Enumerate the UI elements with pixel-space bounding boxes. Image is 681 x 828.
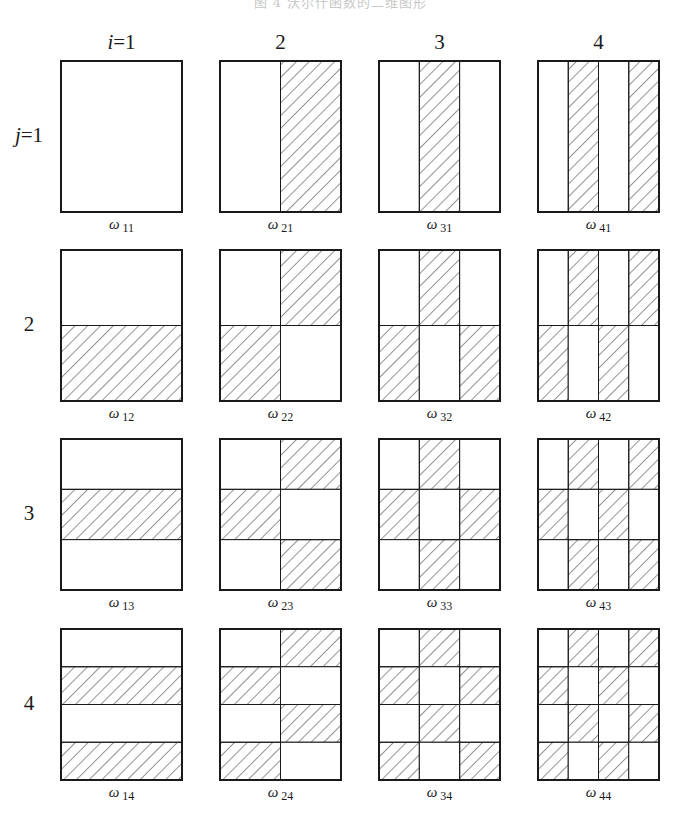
hatched-cell (379, 489, 419, 539)
hatched-cell (460, 326, 500, 402)
blank-cell (538, 439, 568, 489)
walsh-panel-41: ω41 (538, 61, 659, 212)
blank-cell (460, 705, 500, 743)
blank-cell (281, 489, 342, 539)
panel-label: ω14 (61, 784, 182, 804)
blank-cell (460, 61, 500, 212)
hatched-cell (538, 667, 568, 705)
hatched-cell (61, 326, 182, 402)
blank-cell (379, 61, 419, 212)
hatched-cell (460, 742, 500, 780)
walsh-panel-21: ω21 (220, 61, 341, 212)
blank-cell (379, 439, 419, 489)
blank-cell (460, 439, 500, 489)
panel-label: ω34 (379, 784, 500, 804)
hatched-cell (460, 667, 500, 705)
walsh-panel-31: ω31 (379, 61, 500, 212)
hatched-cell (629, 439, 659, 489)
row-label-1: j=1 (0, 123, 58, 148)
panel-label: ω24 (220, 784, 341, 804)
hatched-cell (568, 61, 598, 212)
walsh-panel-23: ω23 (220, 439, 341, 590)
hatched-cell (281, 439, 342, 489)
hatched-cell (568, 705, 598, 743)
hatched-cell (599, 667, 629, 705)
hatched-cell (538, 489, 568, 539)
hatched-cell (220, 489, 281, 539)
blank-cell (419, 489, 459, 539)
blank-cell (460, 540, 500, 590)
blank-cell (419, 667, 459, 705)
panel-label: ω31 (379, 216, 500, 236)
walsh-panel-11: ω11 (61, 61, 182, 212)
blank-cell (538, 705, 568, 743)
blank-cell (460, 629, 500, 667)
blank-cell (281, 326, 342, 402)
blank-cell (379, 540, 419, 590)
blank-cell (379, 629, 419, 667)
walsh-panel-24: ω24 (220, 629, 341, 780)
blank-cell (568, 326, 598, 402)
blank-cell (220, 250, 281, 326)
row-label-4: 4 (0, 691, 58, 716)
row-label-2: 2 (0, 312, 58, 337)
hatched-cell (419, 61, 459, 212)
hatched-cell (61, 667, 182, 705)
blank-cell (629, 742, 659, 780)
hatched-cell (61, 742, 182, 780)
blank-cell (61, 250, 182, 326)
hatched-cell (599, 326, 629, 402)
panel-label: ω43 (538, 594, 659, 614)
column-label-4: 4 (538, 30, 659, 55)
blank-cell (379, 250, 419, 326)
panel-label: ω21 (220, 216, 341, 236)
walsh-panel-13: ω13 (61, 439, 182, 590)
blank-cell (538, 540, 568, 590)
row-label-3: 3 (0, 501, 58, 526)
walsh-panel-42: ω42 (538, 250, 659, 401)
walsh-panel-14: ω14 (61, 629, 182, 780)
blank-cell (61, 61, 182, 212)
panel-label: ω13 (61, 594, 182, 614)
blank-cell (220, 61, 281, 212)
blank-cell (568, 489, 598, 539)
blank-cell (568, 667, 598, 705)
blank-cell (460, 250, 500, 326)
blank-cell (629, 326, 659, 402)
hatched-cell (629, 540, 659, 590)
walsh-panel-34: ω34 (379, 629, 500, 780)
blank-cell (629, 489, 659, 539)
hatched-cell (281, 540, 342, 590)
blank-cell (599, 540, 629, 590)
blank-cell (599, 250, 629, 326)
hatched-cell (568, 439, 598, 489)
walsh-panel-33: ω33 (379, 439, 500, 590)
hatched-cell (599, 742, 629, 780)
hatched-cell (419, 250, 459, 326)
hatched-cell (281, 629, 342, 667)
blank-cell (61, 540, 182, 590)
blank-cell (220, 540, 281, 590)
blank-cell (220, 439, 281, 489)
hatched-cell (220, 742, 281, 780)
hatched-cell (220, 326, 281, 402)
blank-cell (379, 705, 419, 743)
hatched-cell (538, 742, 568, 780)
panel-label: ω32 (379, 405, 500, 425)
panel-label: ω12 (61, 405, 182, 425)
panel-label: ω22 (220, 405, 341, 425)
hatched-cell (61, 489, 182, 539)
panel-label: ω42 (538, 405, 659, 425)
hatched-cell (379, 742, 419, 780)
walsh-panel-43: ω43 (538, 439, 659, 590)
hatched-cell (220, 667, 281, 705)
hatched-cell (538, 326, 568, 402)
hatched-cell (419, 629, 459, 667)
hatched-cell (379, 326, 419, 402)
hatched-cell (629, 629, 659, 667)
hatched-cell (419, 540, 459, 590)
blank-cell (61, 705, 182, 743)
blank-cell (419, 742, 459, 780)
panel-label: ω41 (538, 216, 659, 236)
panel-label: ω23 (220, 594, 341, 614)
